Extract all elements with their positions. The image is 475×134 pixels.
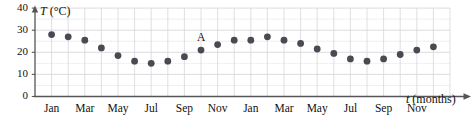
temperature-scatter-chart: 010203040 JanMarMayJulSepNovJanMarMayJul… <box>0 0 475 134</box>
data-point <box>198 47 205 54</box>
data-point <box>264 33 271 40</box>
data-point <box>98 44 105 51</box>
y-tick-label: 40 <box>2 1 28 13</box>
data-point <box>314 46 321 53</box>
y-tick-label: 30 <box>2 23 28 35</box>
data-point <box>115 52 122 59</box>
data-point <box>297 40 304 47</box>
x-tick-label: Mar <box>267 102 301 114</box>
data-point <box>347 56 354 63</box>
y-axis-title: T (°C) <box>40 4 70 19</box>
y-axis-symbol: T <box>40 4 47 18</box>
x-tick-label: May <box>101 102 135 114</box>
data-point <box>397 51 404 58</box>
data-point <box>413 47 420 54</box>
y-tick-label: 0 <box>2 89 28 101</box>
x-tick-label: Nov <box>201 102 235 114</box>
data-point <box>231 37 238 44</box>
x-tick-label: Jul <box>134 102 168 114</box>
data-point <box>281 37 288 44</box>
data-point <box>65 33 72 40</box>
x-tick-label: Jan <box>35 102 69 114</box>
data-point <box>148 60 155 67</box>
x-tick-label: Sep <box>367 102 401 114</box>
x-tick-label: Jan <box>234 102 268 114</box>
x-tick-label: Sep <box>167 102 201 114</box>
data-point <box>131 58 138 65</box>
data-point <box>364 58 371 65</box>
data-point <box>380 56 387 63</box>
data-point <box>330 50 337 57</box>
data-point <box>48 31 55 38</box>
x-axis-title: t (months) <box>406 92 456 107</box>
y-axis-unit: (°C) <box>47 4 71 18</box>
y-tick-label: 10 <box>2 67 28 79</box>
x-tick-label: Mar <box>68 102 102 114</box>
data-point <box>214 41 221 48</box>
y-tick-label: 20 <box>2 45 28 57</box>
data-point <box>247 37 254 44</box>
x-tick-label: Jul <box>333 102 367 114</box>
x-tick-label: May <box>300 102 334 114</box>
x-axis-unit: (months) <box>409 92 455 106</box>
horizontal-gridlines <box>35 8 450 85</box>
data-point <box>430 43 437 50</box>
data-point <box>81 37 88 44</box>
data-point <box>181 53 188 60</box>
data-point <box>164 58 171 65</box>
data-points <box>48 31 437 67</box>
point-label-a: A <box>197 31 205 43</box>
